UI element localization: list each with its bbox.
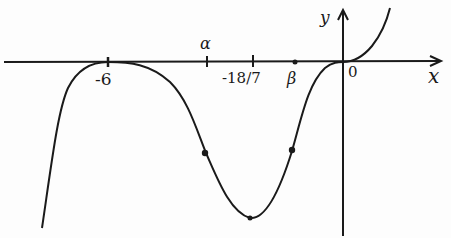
tick-label-alpha: α [200, 36, 211, 52]
axis-label-x: x [428, 66, 439, 86]
tick-label-minus-18-7: -18/7 [222, 71, 261, 86]
tick-label-beta: β [287, 71, 296, 87]
tick-beta [293, 60, 298, 65]
inflection-point-beta [289, 147, 295, 153]
function-curve [42, 8, 390, 228]
inflection-point-alpha [202, 150, 208, 156]
graph-canvas: -6 α -18/7 β y 0 x [0, 0, 451, 238]
axis-label-y: y [320, 9, 330, 26]
minimum-point [248, 216, 253, 221]
x-axis [4, 61, 440, 62]
graph-svg [0, 0, 451, 238]
origin-label: 0 [348, 65, 358, 80]
tick-label-minus-6: -6 [95, 71, 112, 88]
